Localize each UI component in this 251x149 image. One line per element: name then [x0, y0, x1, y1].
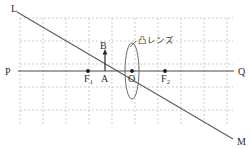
endpoint-label-l: L: [11, 3, 17, 14]
point-label-main: A: [101, 73, 109, 84]
figure-canvas: F1AOF2B LPQM 凸レンズ: [0, 0, 251, 149]
point-label-main: B: [100, 40, 107, 51]
point-label-subscript: 1: [90, 78, 93, 85]
endpoint-label-m: M: [237, 136, 246, 147]
point-label-main: O: [128, 73, 135, 84]
point-label-o: O: [128, 73, 135, 84]
endpoint-label-p: P: [5, 66, 11, 77]
point-label-a: A: [101, 73, 109, 84]
endpoint-label-q: Q: [238, 66, 246, 77]
point-label-b: B: [100, 40, 107, 51]
point-label-subscript: 2: [167, 78, 170, 85]
optics-diagram-figure: F1AOF2B LPQM 凸レンズ: [0, 0, 251, 149]
convex-lens-label: 凸レンズ: [138, 35, 174, 45]
